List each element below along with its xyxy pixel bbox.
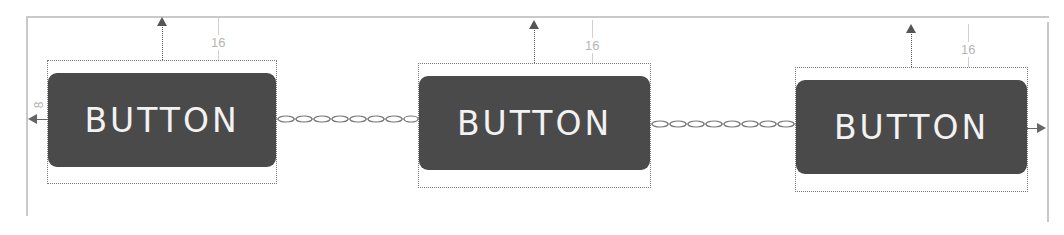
button-3[interactable]: BUTTON	[796, 80, 1027, 174]
button-1-left-constraint	[36, 119, 48, 120]
parent-top-edge	[27, 16, 1049, 18]
button-3-top-constraint	[911, 31, 912, 67]
button-3-top-margin: 16	[961, 42, 975, 57]
parent-right-edge	[1047, 22, 1049, 222]
left-margin: 8	[32, 102, 46, 109]
chain-link-2-3	[650, 118, 796, 130]
button-1-label: BUTTON	[84, 101, 239, 140]
arrow-up-icon	[529, 20, 539, 29]
arrow-right-icon	[1037, 123, 1046, 133]
arrow-left-icon	[28, 114, 37, 124]
arrow-up-icon	[906, 24, 916, 33]
arrow-up-icon	[157, 17, 167, 26]
button-2-label: BUTTON	[457, 104, 612, 143]
button-3-label: BUTTON	[834, 108, 989, 147]
button-1-top-constraint	[162, 24, 163, 60]
button-2-top-margin: 16	[585, 38, 599, 53]
button-1-top-margin: 16	[211, 35, 225, 50]
chain-link-1-2	[276, 113, 419, 125]
button-2[interactable]: BUTTON	[419, 76, 650, 170]
button-1[interactable]: BUTTON	[48, 73, 276, 167]
button-2-top-constraint	[534, 27, 535, 63]
